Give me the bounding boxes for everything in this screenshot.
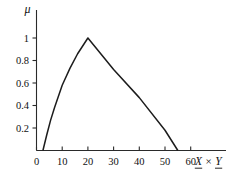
y-axis-group: 1 0.8 0.6 0.4 0.2 μ <box>16 2 37 151</box>
x-axis-title-operator: × <box>205 155 211 167</box>
x-tick-label-30: 30 <box>108 156 119 167</box>
x-tick-label-10: 10 <box>57 156 68 167</box>
x-axis-title-group: X × Y <box>194 155 223 168</box>
x-axis-title-y: Y <box>215 155 223 167</box>
y-tick-label-0.8: 0.8 <box>16 55 29 66</box>
x-tick-label-50: 50 <box>160 156 171 167</box>
membership-function-chart: 1 0.8 0.6 0.4 0.2 μ 0 10 20 30 40 50 60 … <box>0 0 231 178</box>
y-tick-label-0.2: 0.2 <box>16 123 29 134</box>
x-tick-label-20: 20 <box>83 156 94 167</box>
x-tick-label-40: 40 <box>134 156 145 167</box>
y-axis-title-mu: μ <box>23 2 30 16</box>
y-tick-label-0.6: 0.6 <box>16 78 29 89</box>
x-tick-label-0: 0 <box>34 156 39 167</box>
x-axis-title-x: X <box>194 155 203 167</box>
y-tick-label-0.4: 0.4 <box>16 100 30 111</box>
membership-curve <box>43 38 178 151</box>
figure-container: 1 0.8 0.6 0.4 0.2 μ 0 10 20 30 40 50 60 … <box>0 0 231 178</box>
y-tick-label-1: 1 <box>24 33 29 44</box>
